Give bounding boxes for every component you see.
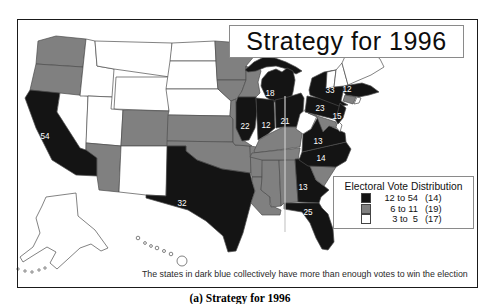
legend-range: 12 to 54 [376,193,418,203]
state-ev-label-oh: 21 [280,117,290,126]
state-hi-island [163,250,166,253]
state-wa [36,36,86,67]
state-hi-island [155,246,159,250]
state-nd [170,41,216,61]
state-ev-label-fl: 25 [303,208,313,217]
legend-swatch-dark [361,193,371,203]
map-figure: 5432182212211325141323331512 Strategy fo… [0,0,489,304]
state-ev-label-nj: 15 [332,112,342,121]
state-nm [119,146,168,196]
state-ks [167,115,233,142]
state-hi-island [150,245,153,248]
legend: Electoral Vote Distribution 12 to 54 (14… [333,176,474,229]
state-ev-label-mi: 18 [265,89,275,98]
legend-title: Electoral Vote Distribution [334,181,473,192]
state-ne [166,89,231,116]
state-hi-island [177,256,187,266]
state-hi-island [169,252,173,256]
state-il [236,97,257,141]
state-ev-label-il: 22 [240,122,250,131]
state-hi-island [144,242,147,245]
legend-swatch-medium [361,204,371,214]
title-box: Strategy for 1996 [229,25,464,58]
legend-row: 3 to 5 (17) [361,215,473,224]
legend-range: 6 to 11 [376,204,418,214]
state-hi-island [136,236,140,240]
figure-title: Strategy for 1996 [246,27,446,56]
state-co [121,110,169,146]
state-ak-island [31,271,33,273]
state-ak-island [24,270,26,272]
legend-row: 12 to 54 (14) [361,194,473,203]
state-ak-island [17,268,19,270]
state-ev-label-ny: 33 [325,86,335,95]
legend-count: (19) [425,204,442,214]
state-ev-label-nc: 14 [316,154,326,163]
legend-range: 3 to 5 [376,214,418,224]
state-wy [114,77,170,111]
legend-count: (17) [425,214,442,224]
state-ev-label-ga: 13 [298,183,308,192]
state-ev-label-ca: 54 [40,132,50,141]
legend-row: 6 to 11 (19) [361,204,473,213]
state-ak-island [44,267,46,269]
state-ev-label-va: 13 [313,137,323,146]
state-ev-label-tx: 32 [177,199,187,208]
state-ev-label-pa: 23 [315,104,325,113]
legend-swatch-light [361,214,371,224]
state-ak [20,193,108,269]
state-ev-label-ma: 12 [342,85,352,94]
footnote: The states in dark blue collectively hav… [142,269,468,279]
state-ak-island [38,269,40,271]
state-ev-label-in: 12 [261,121,271,130]
figure-caption: (a) Strategy for 1996 [0,292,480,304]
state-sd [166,61,218,89]
legend-count: (14) [425,193,442,203]
